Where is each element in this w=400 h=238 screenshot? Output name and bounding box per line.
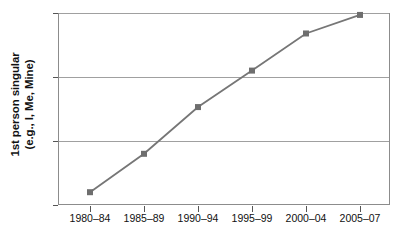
x-tick-mark-5 <box>360 206 361 212</box>
series-line-0 <box>90 15 360 192</box>
y-tick-mark-12 <box>53 77 58 78</box>
chart-figure: 1st person singular (e.g., I, Me, Mine) … <box>0 0 400 238</box>
x-tick-mark-4 <box>306 206 307 212</box>
data-point-1 <box>141 151 147 157</box>
y-tick-mark-13 <box>53 13 58 14</box>
x-tick-label-5: 2005–07 <box>325 212 395 224</box>
x-tick-mark-3 <box>252 206 253 212</box>
x-tick-mark-2 <box>198 206 199 212</box>
data-point-3 <box>249 68 255 74</box>
chart-canvas <box>0 0 400 238</box>
data-point-5 <box>357 12 363 18</box>
data-point-0 <box>87 189 93 195</box>
x-tick-mark-1 <box>144 206 145 212</box>
data-point-4 <box>303 30 309 36</box>
y-tick-mark-10 <box>53 205 58 206</box>
data-point-2 <box>195 104 201 110</box>
x-tick-mark-0 <box>90 206 91 212</box>
y-tick-mark-11 <box>53 141 58 142</box>
